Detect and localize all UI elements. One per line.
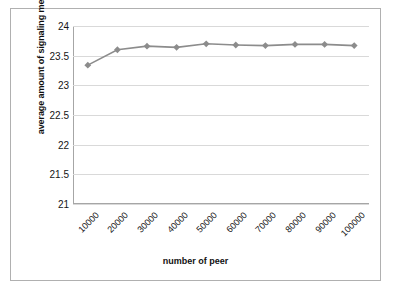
y-tick-label: 22.5 <box>50 110 69 121</box>
data-point-marker <box>292 41 299 48</box>
y-tick-label: 24 <box>58 21 69 32</box>
data-point-marker <box>232 42 239 49</box>
data-point-marker <box>321 41 328 48</box>
y-axis-title: average amount of signaling messages <box>36 0 46 142</box>
x-tick-label: 30000 <box>135 210 160 235</box>
chart-figure-frame: average amount of signaling messages 212… <box>10 8 381 281</box>
data-point-marker <box>173 44 180 51</box>
y-tick-label: 22 <box>58 139 69 150</box>
y-tick-label: 21 <box>58 199 69 210</box>
y-tick-label: 21.5 <box>50 169 69 180</box>
plot-area: 2121.52222.52323.524 1000020000300004000… <box>73 26 369 204</box>
x-tick-label: 100000 <box>339 210 367 238</box>
x-tick-label: 40000 <box>165 210 190 235</box>
data-point-marker <box>262 42 269 49</box>
x-tick-label: 80000 <box>283 210 308 235</box>
data-series-line <box>73 26 369 204</box>
data-point-marker <box>351 42 358 49</box>
data-point-marker <box>144 43 151 50</box>
data-point-marker <box>114 46 121 53</box>
x-axis-title: number of peer <box>11 256 380 266</box>
x-tick-label: 90000 <box>313 210 338 235</box>
series-line <box>88 44 354 65</box>
x-tick-label: 20000 <box>106 210 131 235</box>
x-tick-label: 50000 <box>194 210 219 235</box>
x-tick-label: 60000 <box>224 210 249 235</box>
x-tick-label: 70000 <box>254 210 279 235</box>
gridline <box>73 204 369 205</box>
y-tick-label: 23.5 <box>50 50 69 61</box>
data-point-marker <box>84 62 91 69</box>
x-tick-label: 10000 <box>76 210 101 235</box>
data-point-marker <box>203 40 210 47</box>
y-tick-label: 23 <box>58 80 69 91</box>
